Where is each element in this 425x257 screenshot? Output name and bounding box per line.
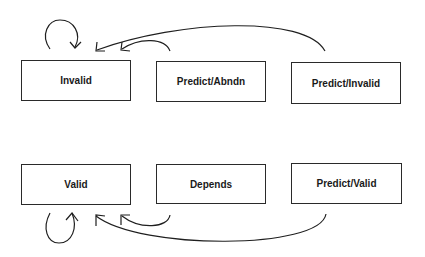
predict-invalid-to-invalid-arrow: [97, 26, 325, 51]
state-invalid: Invalid: [21, 60, 131, 101]
state-label: Depends: [190, 179, 232, 190]
self-loop-valid-arrow: [46, 213, 74, 243]
depends-to-valid-arrow: [122, 215, 170, 226]
abndn-to-invalid-arrow: [122, 41, 170, 51]
state-label: Predict/Invalid: [312, 78, 380, 89]
transition-arrows: [0, 0, 425, 257]
state-depends: Depends: [156, 164, 266, 204]
state-valid: Valid: [21, 164, 131, 205]
state-label: Invalid: [60, 75, 92, 86]
predict-valid-to-valid-arrow: [96, 214, 326, 241]
state-predict-abndn: Predict/Abndn: [156, 61, 266, 102]
state-label: Predict/Abndn: [177, 76, 245, 87]
state-label: Predict/Valid: [316, 178, 376, 189]
state-predict-invalid: Predict/Invalid: [291, 62, 401, 104]
state-label: Valid: [64, 179, 87, 190]
state-predict-valid: Predict/Valid: [291, 163, 402, 204]
